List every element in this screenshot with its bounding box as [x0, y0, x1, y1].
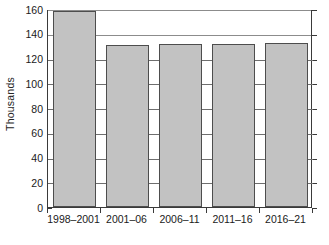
x-axis-tick-label: 2001–06: [100, 214, 153, 226]
y-axis-tick-mark-right: [312, 35, 317, 36]
gridline-segment: [255, 183, 265, 184]
y-axis-tick-label: 120: [25, 54, 43, 65]
y-axis-tick-label: 60: [31, 128, 43, 139]
y-axis-tick-label: 160: [25, 5, 43, 16]
y-axis-tick-label: 20: [31, 178, 43, 189]
gridline-segment: [202, 60, 212, 61]
y-axis-tick-label: 140: [25, 29, 43, 40]
plot-area: [47, 10, 312, 208]
x-axis-tick-mark: [153, 208, 154, 213]
y-axis-tick-label: 100: [25, 79, 43, 90]
gridline-segment: [308, 60, 313, 61]
gridline-segment: [202, 159, 212, 160]
y-axis-tick-label: 40: [31, 153, 43, 164]
x-axis-tick-mark: [100, 208, 101, 213]
y-axis-tick-label: 80: [31, 104, 43, 115]
bar: [53, 11, 96, 207]
y-axis-tick-labels: 020406080100120140160: [0, 0, 43, 245]
gridline-segment: [202, 183, 212, 184]
gridline-segment: [202, 84, 212, 85]
gridline-segment: [202, 134, 212, 135]
gridline-segment: [149, 183, 159, 184]
gridline-segment: [255, 109, 265, 110]
gridline-segment: [149, 84, 159, 85]
x-axis-tick-mark: [206, 208, 207, 213]
gridline-segment: [308, 109, 313, 110]
gridline-segment: [202, 109, 212, 110]
gridline-segment: [255, 60, 265, 61]
gridline-segment: [308, 134, 313, 135]
y-axis-tick-label: 0: [37, 203, 43, 214]
bar: [212, 44, 255, 207]
y-axis-tick-mark-right: [312, 10, 317, 11]
x-axis-tick-label: 2016–21: [259, 214, 312, 226]
gridline-segment: [308, 84, 313, 85]
gridline-segment: [308, 183, 313, 184]
gridline-segment: [308, 159, 313, 160]
bar: [265, 43, 308, 207]
gridline-segment: [149, 134, 159, 135]
gridline-segment: [149, 159, 159, 160]
gridline-segment: [255, 159, 265, 160]
gridline-segment: [96, 84, 106, 85]
x-axis-tick-label: 1998–2001: [47, 214, 100, 226]
gridline-segment: [96, 109, 106, 110]
x-axis-tick-mark: [312, 208, 313, 213]
x-axis-tick-label: 2011–16: [206, 214, 259, 226]
bar-chart: Thousands 020406080100120140160 1998–200…: [0, 0, 329, 245]
gridline-segment: [96, 159, 106, 160]
bar: [159, 44, 202, 207]
gridline-segment: [255, 134, 265, 135]
gridline-segment: [96, 60, 106, 61]
bar: [106, 45, 149, 207]
gridline-segment: [149, 60, 159, 61]
gridline-segment: [96, 183, 106, 184]
x-axis-tick-mark: [259, 208, 260, 213]
gridline-segment: [149, 109, 159, 110]
gridline-segment: [255, 84, 265, 85]
x-axis-tick-label: 2006–11: [153, 214, 206, 226]
gridline-segment: [96, 134, 106, 135]
